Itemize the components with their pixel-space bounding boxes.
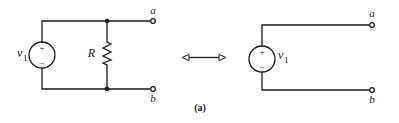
source-subscript: 1: [23, 53, 28, 63]
junction-dot-bottom: [105, 87, 110, 92]
source-minus-sign: –: [39, 57, 45, 67]
terminal-b-icon: [370, 88, 375, 93]
right-bottom-wire: [262, 72, 369, 90]
double-arrow-icon: [182, 55, 226, 61]
source-minus-sign: –: [259, 61, 265, 71]
source-plus-sign: +: [259, 47, 264, 57]
terminal-b-label: b: [369, 93, 375, 105]
resistor-icon: [103, 21, 111, 89]
resistor-label: R: [87, 46, 96, 60]
terminal-b-icon: [151, 87, 156, 92]
figure-caption: (a): [194, 102, 206, 114]
terminal-a-icon: [370, 23, 375, 28]
terminal-a-label: a: [369, 7, 375, 19]
left-circuit: + – v 1 R a b: [17, 4, 156, 104]
circuit-figure: + – v 1 R a b + – v 1 a b (a): [0, 0, 399, 123]
source-plus-sign: +: [39, 43, 44, 53]
right-circuit: + – v 1 a b: [249, 7, 375, 105]
junction-dot-top: [105, 19, 110, 24]
left-bottom-wire: [42, 68, 150, 89]
right-top-wire: [262, 25, 369, 46]
terminal-a-icon: [151, 19, 156, 24]
left-top-wire: [42, 21, 150, 42]
source-subscript: 1: [284, 55, 289, 65]
terminal-b-label: b: [150, 92, 156, 104]
terminal-a-label: a: [150, 4, 156, 16]
